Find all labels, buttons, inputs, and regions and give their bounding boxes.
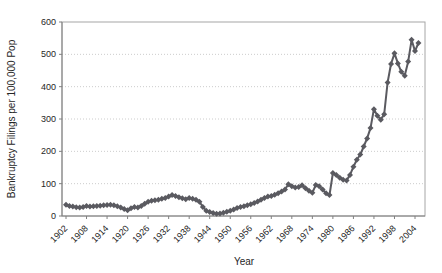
x-tick-label: 1908: [69, 223, 90, 244]
y-tick-label: 500: [41, 49, 56, 59]
y-tick-label: 200: [41, 146, 56, 156]
x-tick-label: 1932: [151, 223, 172, 244]
y-tick-label: 0: [51, 211, 56, 221]
line-chart-canvas: 0100200300400500600190219081914192019261…: [0, 0, 442, 273]
x-axis-tick-labels: 1902190819141920192619321938194419501956…: [48, 223, 418, 244]
x-tick-label: 1920: [110, 223, 131, 244]
diamond-marker: [361, 143, 367, 149]
diamond-marker: [388, 61, 394, 67]
x-tick-label: 1944: [192, 223, 213, 244]
y-tick-label: 600: [41, 17, 56, 27]
diamond-marker: [364, 135, 370, 141]
x-tick-label: 1986: [336, 223, 357, 244]
y-tick-label: 100: [41, 179, 56, 189]
bankruptcy-filings-chart: 0100200300400500600190219081914192019261…: [0, 0, 442, 273]
x-tick-label: 1938: [171, 223, 192, 244]
diamond-marker: [405, 58, 411, 64]
diamond-marker: [395, 60, 401, 66]
x-tick-label: 1914: [89, 223, 110, 244]
diamond-marker: [412, 48, 418, 54]
x-axis-title: Year: [234, 256, 254, 267]
x-tick-label: 2004: [397, 223, 418, 244]
x-tick-label: 1926: [130, 223, 151, 244]
diamond-marker: [368, 125, 374, 131]
x-tick-label: 1950: [212, 223, 233, 244]
data-series-markers: [63, 37, 421, 217]
y-axis-tick-labels: 0100200300400500600: [41, 17, 56, 221]
data-series-line: [66, 40, 418, 214]
diamond-marker: [385, 79, 391, 85]
y-tick-label: 300: [41, 114, 56, 124]
x-tick-label: 1956: [233, 223, 254, 244]
x-tick-label: 1902: [48, 223, 69, 244]
y-axis-title: Bankruptcy Filings per 100,000 Pop: [6, 40, 17, 198]
x-tick-label: 1980: [315, 223, 336, 244]
x-tick-label: 1974: [295, 223, 316, 244]
x-tick-label: 1968: [274, 223, 295, 244]
diamond-marker: [415, 40, 421, 46]
gridlines: [62, 54, 425, 183]
x-tick-label: 1962: [253, 223, 274, 244]
diamond-marker: [409, 37, 415, 43]
x-tick-label: 1998: [377, 223, 398, 244]
diamond-marker: [391, 50, 397, 56]
y-tick-label: 400: [41, 82, 56, 92]
x-tick-label: 1992: [356, 223, 377, 244]
